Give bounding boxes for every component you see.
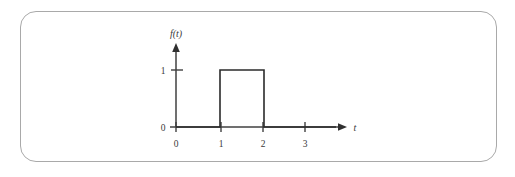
x-axis-arrow-icon	[338, 123, 347, 131]
y-axis-arrow-icon	[172, 43, 180, 52]
pulse-waveform	[176, 70, 336, 127]
y-tick-label-0: 0	[161, 123, 166, 133]
x-tick-label-1: 1	[219, 139, 224, 149]
y-axis-label: f(t)	[170, 28, 183, 40]
x-tick-label-3: 3	[303, 139, 308, 149]
x-tick-label-0: 0	[174, 139, 179, 149]
y-tick-label-1: 1	[161, 66, 166, 76]
x-axis-label: t	[354, 122, 357, 133]
plot-canvas: 1 0 0 1 2 3 f(t) t	[0, 0, 515, 177]
x-tick-label-2: 2	[261, 139, 266, 149]
figure-root: 1 0 0 1 2 3 f(t) t	[0, 0, 515, 177]
